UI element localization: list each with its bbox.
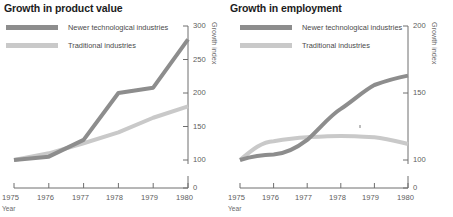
series-line-newer-technological-industries bbox=[14, 39, 188, 160]
x-axis-tick-label: 1979 bbox=[362, 193, 379, 202]
x-axis-tick-label: 1976 bbox=[37, 193, 54, 202]
chart-panel-employment: Growth in employment Newer technological… bbox=[226, 0, 452, 217]
y-axis-tick-label: 0 bbox=[193, 183, 197, 192]
x-axis-tick-label: 1975 bbox=[2, 193, 19, 202]
x-axis-tick-label: 1977 bbox=[72, 193, 89, 202]
plot-area-employment bbox=[226, 0, 453, 217]
x-axis-tick-label: 1980 bbox=[176, 193, 193, 202]
x-axis-tick-label: 1977 bbox=[295, 193, 312, 202]
x-axis-title: Year bbox=[2, 205, 15, 212]
y-axis-tick-label: 0 bbox=[413, 183, 417, 192]
y-axis-tick-label: 200 bbox=[193, 88, 206, 97]
y-axis-tick-label: 100 bbox=[193, 155, 206, 164]
x-axis-tick-label: 1976 bbox=[262, 193, 279, 202]
chart-panel-product-value: Growth in product value Newer technologi… bbox=[0, 0, 226, 217]
y-axis-tick-label: 200 bbox=[413, 21, 426, 30]
y-axis-tick-label: 150 bbox=[193, 122, 206, 131]
series-line-newer-technological-industries bbox=[240, 76, 408, 160]
x-axis-tick-label: 1978 bbox=[329, 193, 346, 202]
x-axis-title: Year bbox=[228, 205, 241, 212]
x-axis-tick-label: 1975 bbox=[228, 193, 245, 202]
image-artifact-speck bbox=[359, 125, 361, 128]
x-axis-tick-label: 1978 bbox=[106, 193, 123, 202]
y-axis-title: Growth index bbox=[430, 22, 439, 64]
y-axis-tick-label: 150 bbox=[413, 88, 426, 97]
x-axis-tick-label: 1980 bbox=[397, 193, 414, 202]
chart-page: Growth in product value Newer technologi… bbox=[0, 0, 453, 217]
y-axis-tick-label: 300 bbox=[193, 21, 206, 30]
x-axis-tick-label: 1979 bbox=[141, 193, 158, 202]
y-axis-tick-label: 250 bbox=[193, 55, 206, 64]
y-axis-tick-label: 100 bbox=[413, 155, 426, 164]
y-axis-title: Growth index bbox=[210, 22, 219, 64]
